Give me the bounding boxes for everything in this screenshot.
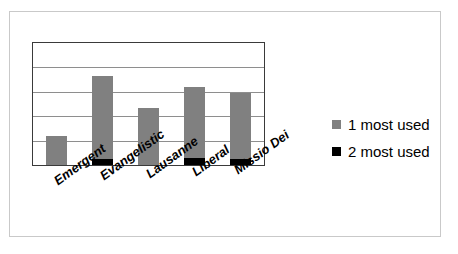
- legend-swatch-primary: [332, 120, 341, 129]
- bar-segment-1-most-used: [184, 87, 205, 158]
- bar-group[interactable]: [46, 136, 67, 165]
- bar-group[interactable]: [230, 93, 251, 165]
- legend-swatch-secondary: [332, 147, 341, 156]
- bar-segment-1-most-used: [92, 76, 113, 159]
- bar-group[interactable]: [92, 76, 113, 165]
- bar-segment-1-most-used: [46, 136, 67, 165]
- legend-label-primary: 1 most used: [348, 116, 430, 133]
- chart-legend: 1 most used 2 most used: [332, 113, 430, 167]
- plot-area: [32, 42, 265, 166]
- bar-segment-2-most-used: [230, 159, 251, 165]
- bar-group[interactable]: [138, 108, 159, 165]
- legend-item-1-most-used: 1 most used: [332, 113, 430, 136]
- bar-segment-1-most-used: [138, 108, 159, 165]
- bar-chart-figure: 1 most used 2 most used EmergentEvangeli…: [0, 0, 458, 254]
- bars-layer: [33, 43, 264, 165]
- chart-outer-frame: 1 most used 2 most used: [9, 11, 441, 237]
- bar-segment-2-most-used: [92, 159, 113, 165]
- legend-label-secondary: 2 most used: [348, 143, 430, 160]
- bar-segment-2-most-used: [184, 158, 205, 165]
- bar-group[interactable]: [184, 87, 205, 165]
- bar-segment-1-most-used: [230, 93, 251, 159]
- legend-item-2-most-used: 2 most used: [332, 140, 430, 163]
